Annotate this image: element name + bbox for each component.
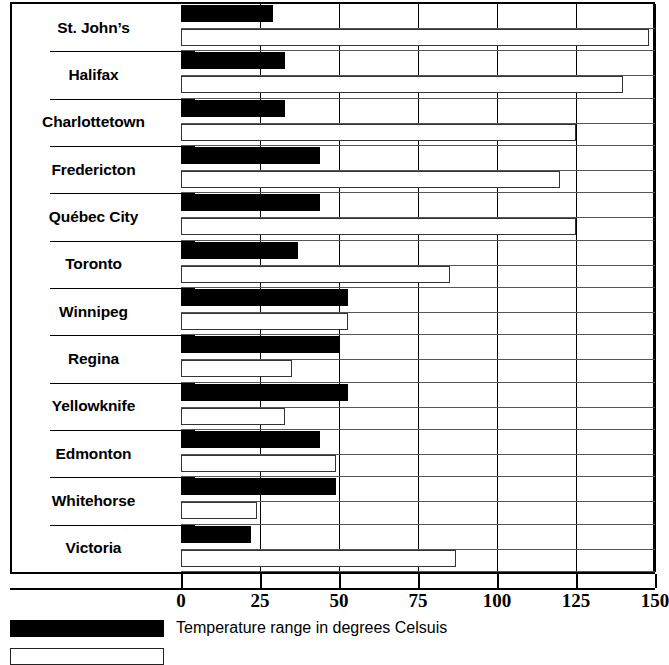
category-label-1: St. John’s <box>12 4 181 51</box>
category-label-text: Victoria <box>66 539 128 557</box>
bar-range-1 <box>181 5 273 22</box>
x-axis-tick <box>181 574 183 588</box>
category-label-text: Winnipeg <box>59 303 134 321</box>
band-separator <box>181 382 655 383</box>
category-label-10: Edmonton <box>12 430 181 477</box>
band-separator <box>181 571 655 572</box>
category-label-text: Halifax <box>68 66 124 84</box>
category-label-4: Fredericton <box>12 146 181 193</box>
category-label-7: Winnipeg <box>12 288 181 335</box>
bar-secondary-12 <box>181 550 456 567</box>
category-label-text: St. John’s <box>57 19 136 37</box>
bar-secondary-2 <box>181 76 623 93</box>
bar-range-8 <box>181 336 339 353</box>
bar-range-9 <box>181 384 348 401</box>
x-axis-tick-label: 125 <box>562 590 591 612</box>
bar-secondary-6 <box>181 266 450 283</box>
x-axis-tick <box>260 574 262 588</box>
category-label-text: Charlottetown <box>42 113 151 131</box>
bar-range-2 <box>181 52 285 69</box>
bar-secondary-7 <box>181 313 348 330</box>
band-separator <box>181 334 655 335</box>
category-label-column: St. John’sHalifaxCharlottetownFredericto… <box>12 4 181 572</box>
x-axis-tick-label: 150 <box>641 590 669 612</box>
category-label-text: Edmonton <box>56 445 138 463</box>
x-axis-tick <box>576 574 578 588</box>
category-label-text: Québec City <box>49 208 144 226</box>
category-label-text: Regina <box>68 350 125 368</box>
x-axis-tick <box>339 574 341 588</box>
x-axis-tick <box>497 574 499 588</box>
band-separator <box>181 429 655 430</box>
plot-area <box>181 4 655 572</box>
x-axis-tick <box>418 574 420 588</box>
legend-label-1: Temperature range in degrees Celsuis <box>176 619 447 637</box>
legend-swatch-1 <box>10 620 164 637</box>
x-axis-tick-label: 0 <box>176 590 186 612</box>
category-label-text: Whitehorse <box>52 492 141 510</box>
category-label-text: Fredericton <box>51 161 141 179</box>
category-label-2: Halifax <box>12 51 181 98</box>
x-axis-tick-label: 25 <box>251 590 270 612</box>
category-label-8: Regina <box>12 335 181 382</box>
bar-range-7 <box>181 289 348 306</box>
x-axis-tick-label: 100 <box>483 590 512 612</box>
band-separator <box>181 240 655 241</box>
category-label-5: Québec City <box>12 193 181 240</box>
legend-swatch-2 <box>10 648 164 665</box>
bar-range-5 <box>181 194 320 211</box>
band-separator <box>181 287 655 288</box>
bar-secondary-9 <box>181 408 285 425</box>
band-separator <box>181 50 655 51</box>
bar-secondary-1 <box>181 29 649 46</box>
category-label-9: Yellowknife <box>12 383 181 430</box>
band-separator <box>181 476 655 477</box>
gridline <box>655 4 656 572</box>
category-label-text: Toronto <box>65 255 128 273</box>
bar-secondary-3 <box>181 124 576 141</box>
x-axis-tick-label: 75 <box>409 590 428 612</box>
category-label-6: Toronto <box>12 241 181 288</box>
bar-range-12 <box>181 526 251 543</box>
band-separator <box>181 98 655 99</box>
bar-range-6 <box>181 242 298 259</box>
band-separator <box>181 145 655 146</box>
category-label-text: Yellowknife <box>52 397 141 415</box>
bar-range-3 <box>181 100 285 117</box>
bar-range-4 <box>181 147 320 164</box>
category-label-3: Charlottetown <box>12 99 181 146</box>
band-separator <box>181 524 655 525</box>
bar-secondary-11 <box>181 502 257 519</box>
bar-secondary-8 <box>181 360 292 377</box>
category-label-11: Whitehorse <box>12 477 181 524</box>
bar-range-10 <box>181 431 320 448</box>
band-separator <box>181 192 655 193</box>
bar-secondary-4 <box>181 171 560 188</box>
bar-secondary-5 <box>181 218 576 235</box>
bar-secondary-10 <box>181 455 336 472</box>
x-axis-tick <box>655 574 657 588</box>
x-axis-tick-label: 50 <box>330 590 349 612</box>
bar-range-11 <box>181 478 336 495</box>
category-label-12: Victoria <box>12 525 181 572</box>
